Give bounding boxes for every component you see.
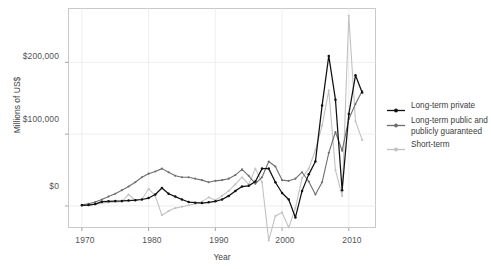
legend-label: Long-term private — [411, 101, 475, 112]
chart-figure: $200,000 $100,000 $0 1970 1980 1990 2000… — [0, 0, 491, 269]
x-tick-label-2000: 2000 — [265, 235, 305, 245]
legend-item-long-term-public[interactable]: Long-term public and publicly guaranteed — [386, 116, 491, 137]
legend-label: Short-term — [411, 140, 450, 151]
data-series-layer — [81, 15, 364, 242]
y-axis-label: Millions of US$ — [12, 55, 22, 155]
legend-swatch-icon — [386, 141, 406, 152]
series-short-term — [81, 15, 363, 242]
x-tick-label-1970: 1970 — [65, 235, 105, 245]
series-long-term-public-and-publicly-guaranteed — [81, 90, 363, 206]
y-tick-label-100000: $100,000 — [0, 114, 59, 124]
x-axis-label: Year — [68, 252, 376, 262]
x-tick-label-1990: 1990 — [199, 235, 239, 245]
gridlines — [69, 9, 376, 228]
legend-swatch-icon — [386, 102, 406, 113]
chart-legend: Long-term private Long-term public and p… — [386, 101, 491, 155]
series-long-term-private — [81, 55, 364, 219]
y-tick-label-200000: $200,000 — [0, 51, 59, 61]
legend-swatch-icon — [386, 117, 406, 128]
legend-item-short-term[interactable]: Short-term — [386, 140, 491, 152]
x-tick-label-1980: 1980 — [132, 235, 172, 245]
legend-item-long-term-private[interactable]: Long-term private — [386, 101, 491, 113]
y-tick-label-0: $0 — [0, 181, 59, 191]
x-tick-label-2010: 2010 — [332, 235, 372, 245]
legend-label: Long-term public and publicly guaranteed — [411, 116, 488, 137]
